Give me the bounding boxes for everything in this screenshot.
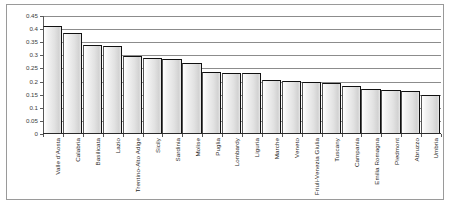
x-tick-label: Lazio bbox=[115, 138, 121, 153]
bar bbox=[242, 73, 261, 134]
bar bbox=[381, 90, 400, 134]
x-tick-mark bbox=[361, 134, 362, 137]
x-tick-mark bbox=[441, 134, 442, 137]
x-tick-label: Umbria bbox=[433, 138, 439, 159]
x-category-label: Valle d'Aosta bbox=[55, 138, 61, 175]
x-tick-label: Basilicata bbox=[95, 138, 101, 165]
chart-frame: 00.050.10.150.20.250.30.350.40.45 Valle … bbox=[6, 4, 444, 200]
x-category-label: Veneto bbox=[294, 138, 300, 158]
x-category-label: Emilia Romagna bbox=[374, 138, 380, 185]
bar bbox=[162, 59, 181, 134]
bar bbox=[262, 80, 281, 134]
x-category-label: Tuscany bbox=[334, 138, 340, 162]
bar bbox=[421, 95, 440, 134]
x-tick-label: Valle d'Aosta bbox=[55, 138, 61, 175]
x-tick-label: Liguria bbox=[254, 138, 260, 157]
x-tick-label: Trentino-Alto Adige bbox=[135, 138, 141, 192]
y-tick-label: 0.15 bbox=[26, 92, 38, 98]
y-tick-label: 0.1 bbox=[29, 105, 38, 111]
bar bbox=[401, 91, 420, 134]
bar bbox=[143, 58, 162, 134]
x-tick-mark bbox=[103, 134, 104, 137]
x-tick-mark bbox=[282, 134, 283, 137]
bar-chart-figure: 00.050.10.150.20.250.30.350.40.45 Valle … bbox=[0, 0, 450, 207]
x-tick-mark bbox=[302, 134, 303, 137]
y-tick-label: 0.05 bbox=[26, 118, 38, 124]
x-category-label: Puglia bbox=[215, 138, 221, 156]
x-tick-label: Sicily bbox=[155, 138, 161, 153]
x-tick-label: Puglia bbox=[215, 138, 221, 156]
x-tick-mark bbox=[83, 134, 84, 137]
x-tick-mark bbox=[43, 134, 44, 137]
y-tick-label: 0.25 bbox=[26, 65, 38, 71]
x-category-label: Campania bbox=[354, 138, 360, 167]
x-tick-mark bbox=[262, 134, 263, 137]
x-tick-mark bbox=[342, 134, 343, 137]
x-category-label: Marche bbox=[274, 138, 280, 159]
x-tick-label: Marche bbox=[274, 138, 280, 159]
x-tick-mark bbox=[123, 134, 124, 137]
x-category-label: Lazio bbox=[115, 138, 121, 153]
x-tick-label: Emilia Romagna bbox=[374, 138, 380, 185]
bar bbox=[83, 45, 102, 134]
x-tick-label: Campania bbox=[354, 138, 360, 167]
y-tick-label: 0 bbox=[35, 131, 38, 137]
bar bbox=[302, 82, 321, 134]
bar bbox=[222, 73, 241, 134]
x-tick-label: Piedmont bbox=[394, 138, 400, 165]
bar bbox=[361, 89, 380, 134]
x-tick-label: Tuscany bbox=[334, 138, 340, 162]
bar-series bbox=[43, 16, 441, 134]
x-axis-category-labels: Valle d'AostaCalabriaBasilicataLazioTren… bbox=[43, 138, 441, 204]
bar bbox=[123, 56, 142, 134]
x-tick-mark bbox=[222, 134, 223, 137]
x-category-label: Umbria bbox=[433, 138, 439, 159]
x-tick-mark bbox=[182, 134, 183, 137]
y-tick-label: 0.3 bbox=[29, 52, 38, 58]
x-category-label: Abruzzo bbox=[414, 138, 420, 161]
x-tick-mark bbox=[421, 134, 422, 137]
x-tick-mark bbox=[202, 134, 203, 137]
x-category-label: Piedmont bbox=[394, 138, 400, 165]
bar bbox=[202, 72, 221, 134]
x-category-label: Friuli-Venezia Giulia bbox=[314, 138, 320, 195]
bar bbox=[282, 81, 301, 134]
y-tick-label: 0.35 bbox=[26, 39, 38, 45]
x-category-label: Sicily bbox=[155, 138, 161, 153]
x-tick-label: Veneto bbox=[294, 138, 300, 158]
x-category-label: Calabria bbox=[75, 138, 81, 162]
x-tick-mark bbox=[381, 134, 382, 137]
bar bbox=[182, 63, 201, 134]
x-tick-mark bbox=[63, 134, 64, 137]
x-category-label: Liguria bbox=[254, 138, 260, 157]
bar bbox=[103, 46, 122, 134]
x-tick-mark bbox=[242, 134, 243, 137]
x-tick-label: Abruzzo bbox=[414, 138, 420, 161]
x-tick-mark bbox=[322, 134, 323, 137]
x-tick-mark bbox=[162, 134, 163, 137]
x-category-label: Lombardy bbox=[234, 138, 240, 166]
plot-area: 00.050.10.150.20.250.30.350.40.45 bbox=[43, 16, 441, 134]
x-tick-label: Friuli-Venezia Giulia bbox=[314, 138, 320, 195]
x-category-label: Sardinia bbox=[175, 138, 181, 162]
y-tick-label: 0.2 bbox=[29, 78, 38, 84]
x-tick-mark bbox=[401, 134, 402, 137]
x-tick-mark bbox=[143, 134, 144, 137]
y-tick-label: 0.4 bbox=[29, 26, 38, 32]
bar bbox=[63, 33, 82, 134]
x-category-label: Basilicata bbox=[95, 138, 101, 165]
y-tick-label: 0.45 bbox=[26, 13, 38, 19]
bar bbox=[322, 83, 341, 134]
bar bbox=[43, 26, 62, 134]
x-tick-label: Molise bbox=[195, 138, 201, 156]
x-tick-label: Calabria bbox=[75, 138, 81, 162]
x-tick-label: Sardinia bbox=[175, 138, 181, 162]
x-category-label: Molise bbox=[195, 138, 201, 156]
x-tick-label: Lombardy bbox=[234, 138, 240, 166]
x-category-label: Trentino-Alto Adige bbox=[135, 138, 141, 192]
bar bbox=[342, 86, 361, 135]
